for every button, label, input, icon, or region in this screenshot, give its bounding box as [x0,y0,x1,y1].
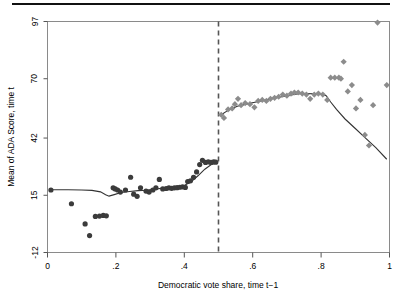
data-point-diamond [341,59,347,65]
data-point-diamond [235,96,241,102]
data-point-circle [118,190,123,195]
y-axis-label: Mean of ADA Score, time t [6,87,16,187]
data-point-circle [69,201,74,206]
x-tick-label-4: .8 [318,261,325,271]
data-point-diamond [384,82,390,88]
x-axis-ticks: 0.2.4.6.81 [45,253,392,271]
x-tick-label-5: 1 [387,261,392,271]
data-point-circle [128,175,133,180]
scatter-chart: -1215427097 0.2.4.6.81 Mean of ADA Score… [0,0,405,307]
data-point-circle [135,194,140,199]
data-point-circle [83,221,88,226]
data-point-diamond [357,97,363,103]
data-point-circle [213,160,218,165]
data-point-diamond [320,92,326,98]
data-point-circle [138,185,143,190]
data-point-circle [194,169,199,174]
data-point-diamond [374,19,380,25]
x-axis-label: Democratic vote share, time t−1 [158,280,279,290]
x-tick-label-1: .2 [112,261,119,271]
data-point-diamond [349,82,355,88]
data-point-diamond [324,97,330,103]
x-tick-label-0: 0 [45,261,50,271]
data-point-circle [191,175,196,180]
x-tick-label-3: .6 [249,261,256,271]
y-tick-label-2: 42 [30,133,40,143]
data-point-circle [153,185,158,190]
data-point-diamond [247,101,253,107]
y-tick-label-1: 15 [30,190,40,200]
data-point-circle [104,213,109,218]
data-point-diamond [353,105,359,111]
data-point-circle [48,187,53,192]
data-point-diamond [345,88,351,94]
y-tick-label-4: 97 [30,17,40,27]
data-point-diamond [307,96,313,102]
y-tick-label-0: -12 [30,246,40,259]
data-point-circle [157,177,162,182]
x-tick-label-2: .4 [181,261,188,271]
data-point-diamond [362,132,368,138]
data-point-diamond [370,102,376,108]
data-point-circle [183,185,188,190]
fit-lines-group [51,94,387,197]
figure-container: -1215427097 0.2.4.6.81 Mean of ADA Score… [0,0,405,307]
data-point-circle [123,187,128,192]
data-point-diamond [251,104,257,110]
y-tick-label-3: 70 [30,74,40,84]
y-axis-ticks: -1215427097 [30,17,48,259]
data-point-circle [87,233,92,238]
